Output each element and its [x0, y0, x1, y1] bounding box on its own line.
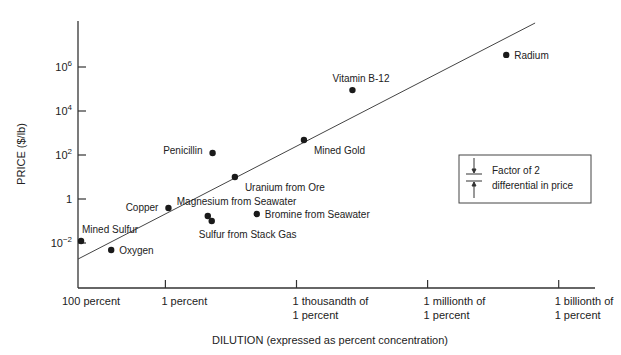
chart: 106104102110−2 100 percent1 percent1 tho… [0, 0, 621, 355]
x-tick-label: 1 percent [161, 295, 207, 307]
data-point [209, 150, 215, 156]
data-point-label: Bromine from Seawater [265, 209, 371, 220]
data-point [254, 211, 260, 217]
x-tick-label: 100 percent [62, 295, 120, 307]
data-point-label: Magnesium from Seawater [177, 196, 297, 207]
legend-line-1: Factor of 2 [492, 165, 540, 176]
x-axis-title: DILUTION (expressed as percent concentra… [212, 334, 448, 346]
y-tick-label: 104 [55, 103, 72, 117]
legend-box [459, 155, 591, 203]
y-axis-title: PRICE ($/lb) [15, 123, 27, 185]
x-tick-label: 1 billionth of [555, 295, 615, 307]
data-point [301, 137, 307, 143]
data-point [205, 213, 211, 219]
data-point-label: Sulfur from Stack Gas [199, 229, 297, 240]
x-tick-label: 1 percent [424, 309, 470, 321]
data-point [78, 238, 84, 244]
y-tick-label: 106 [55, 59, 72, 73]
y-tick-label: 102 [55, 147, 72, 161]
data-point-label: Mined Sulfur [82, 224, 139, 235]
data-point-label: Radium [514, 50, 548, 61]
data-point-label: Mined Gold [314, 145, 365, 156]
data-point-label: Vitamin B-12 [332, 73, 390, 84]
data-point [165, 205, 171, 211]
y-ticks: 106104102110−2 [51, 59, 86, 249]
data-point-label: Copper [126, 202, 159, 213]
data-point [503, 52, 509, 58]
data-point [209, 218, 215, 224]
y-tick-label: 1 [66, 193, 72, 205]
data-point [349, 87, 355, 93]
x-tick-label: 1 thousandth of [293, 295, 370, 307]
legend-line-2: differential in price [492, 180, 573, 191]
y-tick-label: 10−2 [51, 235, 73, 249]
x-tick-label: 1 percent [293, 309, 339, 321]
x-tick-label: 1 millionth of [424, 295, 487, 307]
x-ticks: 100 percent1 percent1 thousandth of1 per… [62, 280, 614, 321]
data-point-label: Oxygen [119, 245, 153, 256]
data-point [108, 247, 114, 253]
data-point [232, 174, 238, 180]
legend: Factor of 2 differential in price [459, 155, 591, 203]
x-tick-label: 1 percent [555, 309, 601, 321]
data-point-label: Penicillin [163, 145, 202, 156]
data-points: Mined SulfurOxygenCopperPenicillinMagnes… [78, 50, 549, 256]
data-point-label: Uranium from Ore [245, 182, 325, 193]
